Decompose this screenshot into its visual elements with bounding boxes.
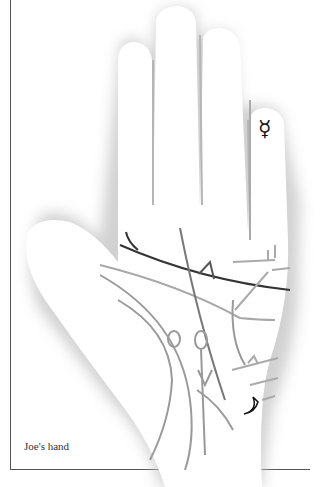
caption: Joe's hand	[24, 440, 69, 452]
hand-outline	[26, 6, 288, 487]
mercury-symbol-icon: ☿	[258, 118, 272, 140]
hand-illustration	[0, 0, 321, 487]
